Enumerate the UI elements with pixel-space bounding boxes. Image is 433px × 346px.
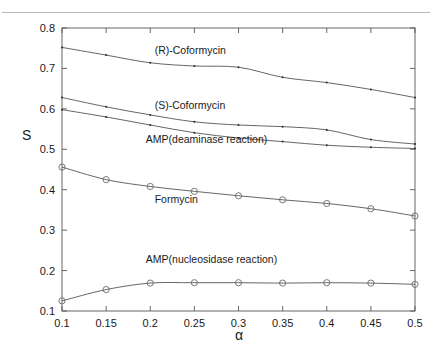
data-point-marker <box>282 76 284 78</box>
data-point-marker <box>193 121 195 123</box>
data-point-marker <box>149 62 151 64</box>
y-tick-label: 0.3 <box>40 224 55 236</box>
y-tick-label: 0.6 <box>40 103 55 115</box>
data-point-marker <box>326 144 328 146</box>
series-4 <box>59 280 418 304</box>
data-point-marker <box>370 146 372 148</box>
x-tick-label: 0.15 <box>95 317 116 329</box>
data-point-marker <box>149 114 151 116</box>
series-line <box>62 47 415 97</box>
x-tick-label: 0.2 <box>143 317 158 329</box>
data-point-marker <box>61 46 63 48</box>
plot-frame <box>62 28 415 311</box>
figure-container: · · 0.10.20.30.40.50.60.70.80.10.150.20.… <box>0 0 433 346</box>
series-label-4: AMP(nucleosidase reaction) <box>146 253 277 265</box>
x-tick-label: 0.5 <box>407 317 422 329</box>
data-point-marker <box>370 139 372 141</box>
data-point-marker <box>414 143 416 145</box>
series-label-2: AMP(deaminase reaction) <box>146 133 267 145</box>
x-tick-label: 0.25 <box>184 317 205 329</box>
data-point-marker <box>105 116 107 118</box>
series-label-1: (S)-Coformycin <box>155 99 226 111</box>
artifact-fragment-2: · <box>22 0 26 4</box>
series-line <box>62 167 415 216</box>
y-tick-label: 0.7 <box>40 62 55 74</box>
data-point-marker <box>61 109 63 111</box>
data-point-marker <box>282 126 284 128</box>
line-chart: 0.10.20.30.40.50.60.70.80.10.150.20.250.… <box>0 0 433 346</box>
series-label-3: Formycin <box>155 193 198 205</box>
data-point-marker <box>326 82 328 84</box>
data-point-marker <box>326 129 328 131</box>
data-point-marker <box>238 66 240 68</box>
y-tick-label: 0.5 <box>40 143 55 155</box>
data-point-marker <box>414 147 416 149</box>
x-tick-label: 0.4 <box>319 317 334 329</box>
y-tick-label: 0.1 <box>40 305 55 317</box>
data-point-marker <box>61 97 63 99</box>
chart-series-group <box>59 46 418 304</box>
horizontal-rule <box>2 12 430 13</box>
artifact-fragment-1: · <box>4 0 8 4</box>
y-tick-label: 0.4 <box>40 184 55 196</box>
series-label-0: (R)-Coformycin <box>155 44 226 56</box>
y-tick-label: 0.8 <box>40 22 55 34</box>
data-point-marker <box>193 65 195 67</box>
x-tick-label: 0.45 <box>360 317 381 329</box>
data-point-marker <box>414 97 416 99</box>
x-axis-title: α <box>235 327 243 343</box>
series-line <box>62 282 415 300</box>
series-0 <box>61 46 416 98</box>
x-tick-label: 0.1 <box>54 317 69 329</box>
data-point-marker <box>282 141 284 143</box>
data-point-marker <box>238 124 240 126</box>
data-point-marker <box>370 88 372 90</box>
data-point-marker <box>105 54 107 56</box>
data-point-marker <box>149 124 151 126</box>
series-3 <box>59 164 418 219</box>
y-axis-title: S <box>22 127 31 143</box>
data-point-marker <box>105 106 107 108</box>
x-tick-label: 0.35 <box>272 317 293 329</box>
chart-series-labels: (R)-Coformycin(S)-CoformycinAMP(deaminas… <box>146 44 277 265</box>
y-tick-label: 0.2 <box>40 265 55 277</box>
